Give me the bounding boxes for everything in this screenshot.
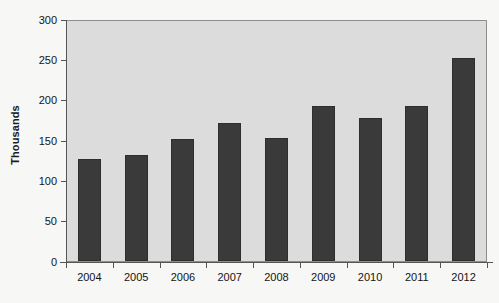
y-axis-tick-label: 50 [45, 216, 61, 227]
bar-2012 [452, 58, 475, 261]
bar-2010 [359, 118, 382, 261]
x-axis-line [60, 262, 493, 263]
bar-2004 [78, 159, 101, 261]
x-axis-tick-mark [393, 263, 394, 268]
y-axis-tick-label: 150 [39, 136, 61, 147]
x-axis-tick-mark [253, 263, 254, 268]
x-axis-tick-label-2007: 2007 [207, 271, 253, 283]
y-axis-tick-label: 200 [39, 95, 61, 106]
bars-layer [67, 21, 486, 261]
plot-area [66, 20, 487, 262]
x-axis-tick-label-2009: 2009 [300, 271, 346, 283]
y-axis-line [66, 20, 67, 263]
bar-2009 [312, 106, 335, 261]
x-axis-tick-mark [347, 263, 348, 268]
x-axis-tick-mark [160, 263, 161, 268]
x-axis-tick-mark [300, 263, 301, 268]
bar-chart-screenshot: Thousands 050100150200250300 20042005200… [0, 0, 499, 303]
x-axis-tick-mark [206, 263, 207, 268]
bar-2011 [405, 106, 428, 261]
bar-2006 [171, 139, 194, 261]
bar-2007 [218, 123, 241, 261]
x-axis-tick-label-2004: 2004 [66, 271, 112, 283]
x-axis-tick-mark [440, 263, 441, 268]
bar-2005 [125, 155, 148, 261]
y-axis-tick-label: 250 [39, 55, 61, 66]
y-axis-tick-label: 300 [39, 15, 61, 26]
x-axis-tick-mark [487, 263, 488, 268]
x-axis-tick-label-2012: 2012 [441, 271, 487, 283]
y-axis: 050100150200250300 [26, 0, 66, 303]
x-axis-tick-label-2010: 2010 [347, 271, 393, 283]
x-axis-tick-label-2005: 2005 [113, 271, 159, 283]
x-axis-tick-mark [113, 263, 114, 268]
y-axis-tick-label: 100 [39, 176, 61, 187]
x-axis-tick-mark [66, 263, 67, 268]
x-axis-tick-label-2011: 2011 [394, 271, 440, 283]
bar-2008 [265, 138, 288, 261]
x-axis-tick-label-2008: 2008 [254, 271, 300, 283]
y-axis-title-label: Thousands [9, 105, 21, 165]
x-axis-tick-label-2006: 2006 [160, 271, 206, 283]
y-axis-title: Thousands [5, 0, 25, 270]
